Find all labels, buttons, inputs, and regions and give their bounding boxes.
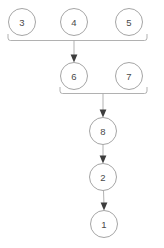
arrowhead-to-node-8 (100, 110, 107, 118)
node-7[interactable]: 7 (116, 63, 143, 90)
node-4-label: 4 (71, 17, 76, 28)
edge-group-345-to-6 (8, 34, 147, 63)
node-3[interactable]: 3 (9, 9, 36, 36)
node-6[interactable]: 6 (61, 63, 88, 90)
node-3-label: 3 (19, 17, 24, 28)
arrowhead-to-node-1 (101, 203, 108, 211)
dependency-graph-canvas: 3 4 5 6 7 8 2 1 (0, 0, 164, 248)
edge-group-67-to-8 (60, 87, 147, 118)
node-1-label: 1 (101, 219, 106, 230)
arrowhead-to-node-6 (71, 55, 78, 63)
arrowhead-to-node-2 (100, 156, 107, 164)
node-5[interactable]: 5 (116, 9, 143, 36)
edge-8-to-2 (100, 145, 107, 164)
node-8[interactable]: 8 (90, 118, 117, 145)
node-6-label: 6 (71, 71, 76, 82)
node-2[interactable]: 2 (90, 164, 117, 191)
node-5-label: 5 (126, 17, 131, 28)
graph-svg: 3 4 5 6 7 8 2 1 (0, 0, 164, 248)
node-4[interactable]: 4 (61, 9, 88, 36)
node-8-label: 8 (100, 126, 105, 137)
node-2-label: 2 (100, 172, 105, 183)
node-7-label: 7 (126, 71, 131, 82)
edge-2-to-1 (101, 191, 108, 211)
node-1[interactable]: 1 (91, 211, 118, 238)
